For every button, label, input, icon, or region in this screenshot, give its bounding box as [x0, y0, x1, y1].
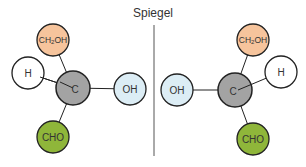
atom-left-oh: OH [114, 73, 146, 105]
svg-text:OH: OH [123, 84, 138, 95]
atom-right-ch2oh: CH2OH [237, 24, 269, 56]
right-molecule: CH2OH OH C H CHO [161, 24, 297, 155]
atom-left-c: C [56, 71, 90, 105]
svg-text:C: C [71, 84, 78, 95]
left-molecule: CH2OH H C OH CHO [12, 24, 146, 153]
mirror-diagram: Spiegel CH2OH H C OH CHO [0, 0, 306, 167]
svg-text:OH: OH [170, 85, 185, 96]
atom-right-oh: OH [161, 74, 193, 106]
atom-left-ch2oh: CH2OH [37, 24, 69, 56]
mirror-title: Spiegel [133, 6, 173, 20]
atom-left-h: H [12, 57, 44, 89]
svg-text:H: H [277, 67, 284, 78]
atom-right-h: H [265, 56, 297, 88]
svg-text:CHO: CHO [42, 132, 64, 143]
svg-text:H: H [24, 68, 31, 79]
atom-right-cho: CHO [237, 123, 269, 155]
atom-left-cho: CHO [37, 121, 69, 153]
svg-text:C: C [229, 86, 236, 97]
svg-text:CHO: CHO [242, 134, 264, 145]
